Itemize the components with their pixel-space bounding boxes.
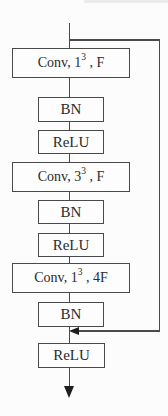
output-arrowhead-icon	[64, 386, 74, 398]
scan-artifact-line	[84, 0, 168, 3]
node-label: ReLU	[53, 237, 90, 254]
node-relu-2: ReLU	[38, 233, 104, 257]
node-conv-3x3x3-F: Conv, 33 , F	[12, 162, 130, 192]
node-label: BN	[61, 306, 82, 323]
connector-bn3-relu3	[69, 326, 71, 344]
skip-connection-top	[69, 39, 160, 41]
skip-merge-arrowhead-icon	[69, 327, 79, 335]
node-label: Conv, 13 , 4F	[34, 270, 107, 286]
skip-connection-bottom	[78, 330, 160, 332]
node-conv-1x1x1-4F: Conv, 13 , 4F	[12, 263, 130, 293]
node-bn-1: BN	[38, 97, 104, 122]
node-label: Conv, 33 , F	[38, 169, 104, 185]
node-label: BN	[61, 204, 82, 221]
node-conv-1x1x1-F: Conv, 13 , F	[12, 48, 130, 78]
node-label: BN	[61, 101, 82, 118]
node-label: ReLU	[53, 347, 90, 364]
connector-input	[69, 23, 71, 48]
node-relu-1: ReLU	[38, 130, 104, 154]
node-relu-3: ReLU	[38, 343, 105, 368]
node-label: Conv, 13 , F	[38, 55, 104, 71]
connector-conv1-bn1	[69, 78, 71, 97]
skip-connection-right	[159, 39, 161, 331]
flowchart-canvas: Conv, 13 , F BN ReLU Conv, 33 , F BN ReL…	[0, 0, 168, 416]
node-bn-2: BN	[38, 200, 104, 224]
node-bn-3: BN	[38, 302, 104, 327]
connector-output	[69, 367, 71, 387]
node-label: ReLU	[53, 134, 90, 151]
